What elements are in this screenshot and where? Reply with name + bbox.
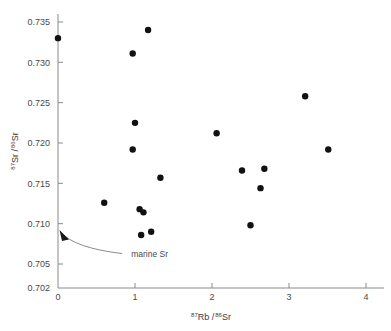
x-tick-label: 4 — [363, 292, 368, 302]
data-point — [261, 166, 267, 172]
data-point — [239, 167, 245, 173]
y-tick-label: 0.715 — [27, 179, 50, 189]
y-tick-label: 0.720 — [27, 138, 50, 148]
y-axis-title: 87Sr /86Sr — [10, 132, 21, 169]
x-tick-label: 0 — [55, 292, 60, 302]
y-tick-label: 0.710 — [27, 219, 50, 229]
data-point — [247, 222, 253, 228]
x-axis-title: 87Rb /86Sr — [191, 312, 231, 323]
y-tick-label: 0.725 — [27, 98, 50, 108]
annotation-label: marine Sr — [131, 249, 168, 259]
y-tick-label: 0.705 — [27, 259, 50, 269]
annotation-arrowhead — [60, 230, 70, 241]
data-point — [325, 146, 331, 152]
data-point — [129, 146, 135, 152]
data-point — [302, 93, 308, 99]
x-tick-label: 2 — [209, 292, 214, 302]
data-point — [101, 199, 107, 205]
data-point — [213, 130, 219, 136]
y-tick-label: 0.730 — [27, 58, 50, 68]
plot-canvas: 0.7020.7050.7100.7150.7200.7250.7300.735… — [0, 0, 391, 331]
data-point — [157, 174, 163, 180]
data-point — [138, 232, 144, 238]
x-tick-label: 3 — [286, 292, 291, 302]
data-point — [145, 27, 151, 33]
data-point — [55, 35, 61, 41]
x-tick-label: 1 — [132, 292, 137, 302]
annotation-curve — [64, 235, 123, 253]
scatter-plot-figure: 0.7020.7050.7100.7150.7200.7250.7300.735… — [0, 0, 391, 331]
x-axis-ticks: 01234 — [55, 283, 368, 302]
data-point — [132, 120, 138, 126]
y-tick-label: 0.735 — [27, 17, 50, 27]
y-tick-label: 0.702 — [27, 283, 50, 293]
data-point — [140, 209, 146, 215]
data-point — [129, 50, 135, 56]
data-point-series — [55, 27, 332, 238]
data-point — [148, 229, 154, 235]
data-point — [257, 185, 263, 191]
